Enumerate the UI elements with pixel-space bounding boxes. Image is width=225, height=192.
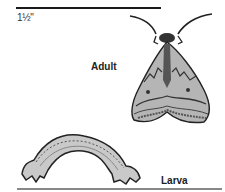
- bottom-rule: [17, 188, 222, 190]
- larva-label: Larva: [161, 175, 188, 186]
- adult-label: Adult: [91, 61, 117, 72]
- scale-label: 1½": [17, 12, 34, 23]
- caterpillar-icon: [14, 122, 148, 188]
- moth-icon: [126, 10, 222, 128]
- scale-bar: [16, 7, 161, 9]
